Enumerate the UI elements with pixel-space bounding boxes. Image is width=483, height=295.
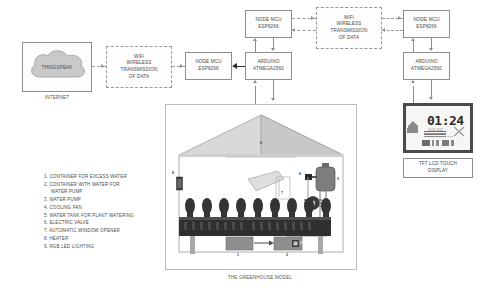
legend-num: 4. xyxy=(44,205,48,210)
legend-text: AUTOMATIC WINDOW OPENER xyxy=(49,228,120,233)
callout-3: 3 xyxy=(300,241,302,245)
link-nodemcu-right-arduino-down xyxy=(431,38,432,48)
tft-status-value: GREENHOUSE STATUS xyxy=(425,135,453,137)
greenhouse-caption: THE GREENHOUSE MODEL xyxy=(165,275,355,281)
callout-7: 7 xyxy=(281,191,283,195)
legend-num: 3. xyxy=(44,197,48,202)
nodemcu-left-box: NODE MCU ESP8266 xyxy=(185,52,232,80)
diagram-canvas: THINGSPEAK INTERNET WiFi WIRELESS TRANSM… xyxy=(0,0,483,295)
arrowhead-nodemcu-right-wifi xyxy=(382,28,385,32)
callout-9: 9 xyxy=(260,141,262,145)
tft-lcd-display[interactable]: 01:24 24.05.2021 GREENHOUSE STATUS xyxy=(403,103,473,153)
legend-text: CONTAINER FOR EXCESS WATER xyxy=(49,174,126,179)
list-item: 3. WATER PUMP xyxy=(44,196,184,204)
arrowhead-nodemcu-wifi-right xyxy=(311,16,314,20)
link-nodemcu-arduino-down xyxy=(273,38,274,48)
arduino-right-box: ARDUINO ATMEGA2560 xyxy=(403,52,450,80)
list-item: 6. ELECTRIC VALVE xyxy=(44,219,184,227)
thingspeak-label: THINGSPEAK xyxy=(23,65,91,72)
callout-5: 5 xyxy=(337,177,339,181)
legend-text: WATER PUMP xyxy=(49,197,81,202)
arduino-center-box: ARDUINO ATMEGA2560 xyxy=(245,52,292,80)
legend-text: ELECTRIC VALVE xyxy=(49,220,88,225)
arrowhead-greenhouse-arduino-up xyxy=(253,80,257,83)
arrowhead-wifi-nodemcu-left xyxy=(180,64,183,68)
arrowhead-tft-arduino-up xyxy=(411,80,415,83)
link-wifi-nodemcu-left xyxy=(172,66,185,67)
arrowhead-arduino-nodemcu-up xyxy=(253,38,257,41)
list-item: WATER PUMP xyxy=(44,188,184,196)
arrowhead-nodemcu-right-arduino-down xyxy=(429,48,433,51)
link-greenhouse-arduino-up xyxy=(255,86,256,104)
internet-thingspeak-box: THINGSPEAK xyxy=(22,42,92,92)
legend-num: 5. xyxy=(44,213,48,218)
legend-text: COOLING FAN xyxy=(49,205,81,210)
list-item: 8. HEATER xyxy=(44,235,184,243)
arduino-center-line2: ATMEGA2560 xyxy=(253,66,284,73)
legend-num: 1. xyxy=(44,174,48,179)
nodemcu-left-line2: ESP8266 xyxy=(198,66,218,73)
callout-2: 2 xyxy=(286,253,288,257)
arrowhead-arduino-greenhouse-down xyxy=(271,98,275,101)
legend-text: CONTAINER WITH WATER FOR xyxy=(49,182,119,187)
list-item: 7. AUTOMATIC WINDOW OPENER xyxy=(44,227,184,235)
list-item: 5. WATER TANK FOR PLANT WATERING xyxy=(44,212,184,220)
arrowhead-nodemcu-arduino-down xyxy=(271,48,275,51)
link-nodemcu-right-wifi-b xyxy=(382,30,403,31)
list-item: 4. COOLING FAN xyxy=(44,204,184,212)
callout-8: 8 xyxy=(172,171,174,175)
arrowhead-arduino-tft-down xyxy=(429,97,433,100)
callout-1: 1 xyxy=(237,253,239,257)
link-arduino-greenhouse-down xyxy=(273,80,274,98)
list-item: 1. CONTAINER FOR EXCESS WATER xyxy=(44,173,184,181)
arrowhead-thingspeak-wifi xyxy=(101,64,104,68)
link-tft-arduino-up xyxy=(413,86,414,103)
link-arduino-right-nodemcu-up xyxy=(413,41,414,52)
arrowhead-arduino-right-nodemcu-up xyxy=(411,38,415,41)
link-arduino-tft-down xyxy=(431,80,432,97)
legend-list: 1. CONTAINER FOR EXCESS WATER 2. CONTAIN… xyxy=(44,173,184,250)
legend-num: 6. xyxy=(44,220,48,225)
legend-text: RGB LED LIGHTING xyxy=(49,244,94,249)
nodemcu-right-box: NODE MCU ESP8266 xyxy=(403,10,450,38)
arduino-right-line2: ATMEGA2560 xyxy=(411,66,442,73)
nodemcu-top-box: NODE MCU ESP8266 xyxy=(245,10,292,38)
arrowhead-arduino-nodemcu-left xyxy=(232,63,237,69)
legend-text: WATER PUMP xyxy=(51,189,83,194)
greenhouse-model-panel: 9 8 5 6 4 7 1 2 3 xyxy=(165,104,357,270)
legend-text: HEATER xyxy=(49,236,68,241)
wifi-transmission-right-box: WiFi WIRELESS TRANSMISSION OF DATA xyxy=(316,7,382,49)
legend-num: 9. xyxy=(44,244,48,249)
callout-4: 4 xyxy=(324,200,326,204)
nodemcu-right-line2: ESP8266 xyxy=(416,24,436,31)
callout-6: 6 xyxy=(299,172,301,176)
tft-caption-box: TFT LCD TOUCH DISPLAY xyxy=(403,158,473,178)
greenhouse-illustration xyxy=(166,105,356,269)
link-wifi-right-nodemcu-b xyxy=(292,30,316,31)
tft-date-value: 24.05.2021 xyxy=(428,129,443,132)
internet-caption: INTERNET xyxy=(22,95,92,101)
legend-num: 8. xyxy=(44,236,48,241)
wifi-transmission-left-box: WiFi WIRELESS TRANSMISSION OF DATA xyxy=(106,46,172,88)
nodemcu-top-line2: ESP8266 xyxy=(258,24,278,31)
wifi-right-line4: OF DATA xyxy=(339,35,359,42)
tft-clock-value: 01:24 xyxy=(427,113,464,128)
list-item: 2. CONTAINER WITH WATER FOR xyxy=(44,181,184,189)
list-item: 9. RGB LED LIGHTING xyxy=(44,243,184,251)
tft-caption-line2: DISPLAY xyxy=(428,168,448,175)
arrowhead-wifi-right-nodemcu xyxy=(292,28,295,32)
legend-num: 7. xyxy=(44,228,48,233)
arrowhead-wifi-nodemcu-right xyxy=(398,16,401,20)
legend-num: 2. xyxy=(44,182,48,187)
wifi-left-line4: OF DATA xyxy=(129,74,149,81)
link-arduino-nodemcu-up xyxy=(255,41,256,52)
legend-text: WATER TANK FOR PLANT WATERING xyxy=(49,213,133,218)
